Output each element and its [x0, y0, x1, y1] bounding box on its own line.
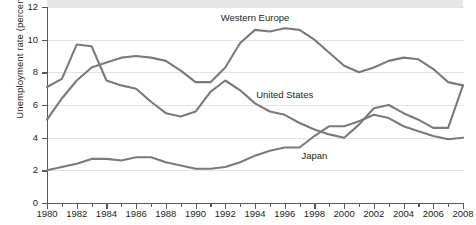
y-axis-title: Unemployment rate (percent)	[14, 0, 25, 131]
x-tick-label-2002: 2002	[363, 209, 384, 219]
series-label-western-europe: Western Europe	[221, 12, 289, 23]
gridline-8	[48, 72, 464, 73]
x-tick-1981	[62, 203, 63, 207]
x-tick-1989	[181, 203, 182, 207]
y-tick-6	[42, 105, 47, 106]
y-tick-12	[42, 7, 47, 8]
x-tick-2007	[448, 203, 449, 207]
y-tick-2	[42, 170, 47, 171]
x-tick-1999	[329, 203, 330, 207]
gridline-4	[48, 138, 464, 139]
x-tick-1985	[121, 203, 122, 207]
x-tick-1995	[270, 203, 271, 207]
x-tick-label-2006: 2006	[423, 209, 444, 219]
y-tick-label-0: 0	[14, 198, 38, 208]
x-tick-label-1992: 1992	[215, 209, 236, 219]
x-tick-2001	[359, 203, 360, 207]
gridline-2	[48, 170, 464, 171]
x-tick-label-1986: 1986	[126, 209, 147, 219]
x-tick-label-1994: 1994	[244, 209, 265, 219]
x-tick-label-2004: 2004	[393, 209, 414, 219]
gridline-6	[48, 105, 464, 106]
x-tick-2003	[389, 203, 390, 207]
plot-area	[47, 7, 464, 203]
x-tick-label-1980: 1980	[36, 209, 57, 219]
x-tick-label-1990: 1990	[185, 209, 206, 219]
y-tick-label-8: 8	[14, 67, 38, 77]
y-tick-label-12: 12	[14, 2, 38, 12]
x-tick-label-1984: 1984	[96, 209, 117, 219]
series-label-united-states: United States	[256, 89, 313, 100]
x-tick-label-2008: 2008	[452, 209, 473, 219]
x-tick-label-1988: 1988	[155, 209, 176, 219]
x-tick-1991	[210, 203, 211, 207]
x-tick-2005	[418, 203, 419, 207]
x-tick-1987	[151, 203, 152, 207]
x-tick-1983	[92, 203, 93, 207]
chart-figure: Unemployment rate (percent) 024681012 19…	[0, 0, 476, 225]
gridline-12	[48, 7, 464, 8]
x-tick-label-1982: 1982	[66, 209, 87, 219]
gridline-10	[48, 40, 464, 41]
y-tick-label-10: 10	[14, 35, 38, 45]
x-tick-label-1998: 1998	[304, 209, 325, 219]
y-tick-label-2: 2	[14, 165, 38, 175]
x-tick-1993	[240, 203, 241, 207]
series-label-japan: Japan	[301, 150, 327, 161]
x-tick-1997	[300, 203, 301, 207]
y-tick-8	[42, 72, 47, 73]
y-tick-10	[42, 40, 47, 41]
y-tick-4	[42, 138, 47, 139]
x-tick-label-2000: 2000	[334, 209, 355, 219]
y-tick-label-4: 4	[14, 133, 38, 143]
x-tick-label-1996: 1996	[274, 209, 295, 219]
y-tick-label-6: 6	[14, 100, 38, 110]
